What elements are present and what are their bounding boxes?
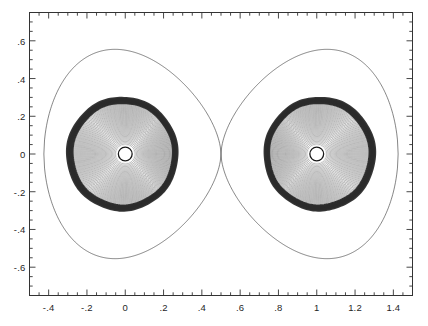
y-tick-label: 0	[20, 149, 25, 160]
x-tick-label: .2	[159, 302, 167, 313]
plot-canvas	[0, 0, 428, 326]
y-tick-label: -.2	[14, 186, 26, 197]
x-tick-label: 1	[314, 302, 319, 313]
y-tick-label: -.6	[14, 262, 26, 273]
x-tick-label: .6	[236, 302, 244, 313]
x-tick-label: -.4	[43, 302, 55, 313]
y-tick-label: .6	[17, 35, 25, 46]
x-tick-label: 0	[123, 302, 128, 313]
figure-background	[0, 0, 428, 326]
x-tick-label: -.2	[81, 302, 93, 313]
y-tick-label: .2	[17, 111, 25, 122]
y-tick-label: .4	[17, 73, 25, 84]
x-tick-label: .4	[198, 302, 206, 313]
contour-plot-figure: -.4-.20.2.4.6.811.21.4 .6.4.20-.2-.4-.6	[0, 0, 428, 326]
y-tick-label: -.4	[14, 224, 26, 235]
x-tick-label: .8	[274, 302, 282, 313]
x-tick-label: 1.2	[348, 302, 362, 313]
x-tick-label: 1.4	[386, 302, 400, 313]
